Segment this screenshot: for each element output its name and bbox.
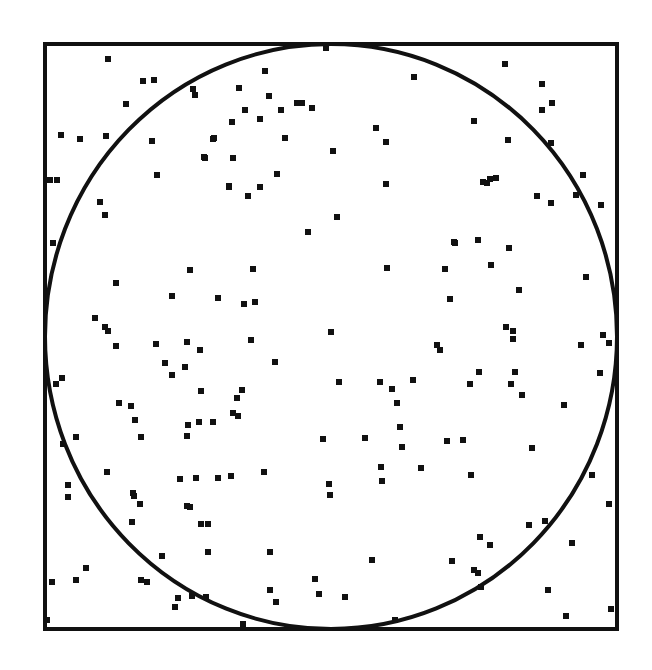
sample-point bbox=[418, 465, 424, 471]
sample-point bbox=[169, 293, 175, 299]
sample-point bbox=[316, 591, 322, 597]
sample-point bbox=[113, 280, 119, 286]
sample-point bbox=[215, 475, 221, 481]
sample-point bbox=[272, 359, 278, 365]
sample-point bbox=[228, 473, 234, 479]
sample-point bbox=[328, 329, 334, 335]
sample-point bbox=[267, 549, 273, 555]
sample-point bbox=[113, 343, 119, 349]
sample-point bbox=[73, 434, 79, 440]
sample-point bbox=[477, 534, 483, 540]
sample-point bbox=[467, 381, 473, 387]
sample-point bbox=[175, 595, 181, 601]
sample-point bbox=[252, 299, 258, 305]
sample-point bbox=[250, 266, 256, 272]
sample-point bbox=[240, 621, 246, 627]
sample-point bbox=[334, 214, 340, 220]
sample-point bbox=[229, 119, 235, 125]
sample-point bbox=[476, 369, 482, 375]
sample-point bbox=[47, 177, 53, 183]
sample-point bbox=[138, 434, 144, 440]
sample-point bbox=[305, 229, 311, 235]
sample-point bbox=[140, 78, 146, 84]
sample-point bbox=[377, 379, 383, 385]
sample-point bbox=[569, 540, 575, 546]
sample-point bbox=[83, 565, 89, 571]
sample-point bbox=[452, 240, 458, 246]
sample-point bbox=[105, 328, 111, 334]
sample-point bbox=[549, 100, 555, 106]
sample-point bbox=[169, 372, 175, 378]
sample-point bbox=[460, 437, 466, 443]
sample-point bbox=[561, 402, 567, 408]
sample-point bbox=[153, 341, 159, 347]
sample-point bbox=[65, 494, 71, 500]
sample-point bbox=[211, 135, 217, 141]
sample-point bbox=[132, 417, 138, 423]
sample-point bbox=[327, 492, 333, 498]
monte-carlo-diagram bbox=[0, 0, 652, 670]
sample-point bbox=[53, 381, 59, 387]
sample-point bbox=[184, 433, 190, 439]
sample-point bbox=[608, 606, 614, 612]
sample-point bbox=[278, 107, 284, 113]
sample-point bbox=[210, 419, 216, 425]
sample-point bbox=[545, 587, 551, 593]
sample-point bbox=[102, 212, 108, 218]
sample-point bbox=[185, 422, 191, 428]
sample-point bbox=[49, 579, 55, 585]
sample-point bbox=[267, 587, 273, 593]
sample-point bbox=[282, 135, 288, 141]
sample-point bbox=[563, 613, 569, 619]
sample-point bbox=[519, 392, 525, 398]
sample-point bbox=[198, 521, 204, 527]
sample-point bbox=[312, 576, 318, 582]
sample-point bbox=[104, 469, 110, 475]
sample-point bbox=[516, 287, 522, 293]
sample-point bbox=[589, 472, 595, 478]
sample-point bbox=[182, 364, 188, 370]
sample-point bbox=[583, 274, 589, 280]
sample-point bbox=[138, 577, 144, 583]
sample-point bbox=[598, 202, 604, 208]
sample-point bbox=[192, 92, 198, 98]
sample-point bbox=[184, 339, 190, 345]
sample-point bbox=[447, 296, 453, 302]
sample-point bbox=[379, 478, 385, 484]
sample-point bbox=[506, 245, 512, 251]
sample-point bbox=[411, 74, 417, 80]
sample-point bbox=[59, 375, 65, 381]
sample-point bbox=[196, 419, 202, 425]
sample-point bbox=[198, 388, 204, 394]
sample-point bbox=[54, 177, 60, 183]
sample-point bbox=[190, 86, 196, 92]
sample-point bbox=[512, 369, 518, 375]
sample-point bbox=[103, 133, 109, 139]
sample-point bbox=[131, 493, 137, 499]
sample-point bbox=[162, 360, 168, 366]
sample-point bbox=[475, 570, 481, 576]
sample-point bbox=[77, 136, 83, 142]
sample-point bbox=[606, 501, 612, 507]
sample-point bbox=[444, 438, 450, 444]
sample-point bbox=[248, 337, 254, 343]
sample-point bbox=[384, 265, 390, 271]
sample-point bbox=[137, 501, 143, 507]
sample-point bbox=[505, 137, 511, 143]
sample-point bbox=[600, 332, 606, 338]
sample-point bbox=[128, 403, 134, 409]
sample-point bbox=[580, 172, 586, 178]
sample-point bbox=[92, 315, 98, 321]
sample-point bbox=[378, 464, 384, 470]
sample-point bbox=[383, 139, 389, 145]
sample-point bbox=[397, 424, 403, 430]
sample-point bbox=[410, 377, 416, 383]
sample-point bbox=[257, 116, 263, 122]
sample-point bbox=[503, 324, 509, 330]
sample-point bbox=[262, 68, 268, 74]
sample-point bbox=[241, 301, 247, 307]
sample-point bbox=[529, 445, 535, 451]
sample-point bbox=[342, 594, 348, 600]
sample-point bbox=[266, 93, 272, 99]
sample-point bbox=[330, 148, 336, 154]
